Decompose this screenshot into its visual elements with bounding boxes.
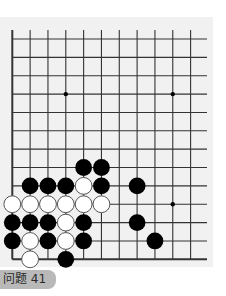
black-stone-icon[interactable] (40, 177, 57, 194)
problem-number-tab: 问题 41 (0, 270, 56, 289)
black-stone-icon[interactable] (4, 214, 21, 231)
white-stone-icon[interactable] (4, 196, 21, 213)
black-stone-icon[interactable] (75, 233, 92, 250)
problem-number-label: 问题 41 (3, 272, 46, 286)
white-stone-icon[interactable] (22, 251, 39, 268)
black-stone-icon[interactable] (4, 233, 21, 250)
black-stone-icon[interactable] (75, 214, 92, 231)
white-stone-icon[interactable] (93, 196, 110, 213)
black-stone-icon[interactable] (22, 214, 39, 231)
black-stone-icon[interactable] (57, 177, 74, 194)
white-stone-icon[interactable] (57, 233, 74, 250)
black-stone-icon[interactable] (22, 177, 39, 194)
black-stone-icon[interactable] (147, 233, 164, 250)
white-stone-icon[interactable] (57, 196, 74, 213)
star-point-icon (171, 202, 175, 206)
star-point-icon (64, 92, 68, 96)
white-stone-icon[interactable] (40, 196, 57, 213)
black-stone-icon[interactable] (57, 251, 74, 268)
white-stone-icon[interactable] (22, 233, 39, 250)
white-stone-icon[interactable] (75, 196, 92, 213)
white-stone-icon[interactable] (57, 214, 74, 231)
white-stone-icon[interactable] (75, 177, 92, 194)
star-point-icon (171, 92, 175, 96)
black-stone-icon[interactable] (129, 177, 146, 194)
go-board[interactable] (0, 0, 226, 296)
black-stone-icon[interactable] (40, 233, 57, 250)
black-stone-icon[interactable] (40, 214, 57, 231)
black-stone-icon[interactable] (75, 159, 92, 176)
white-stone-icon[interactable] (22, 196, 39, 213)
black-stone-icon[interactable] (93, 159, 110, 176)
black-stone-icon[interactable] (129, 214, 146, 231)
black-stone-icon[interactable] (93, 177, 110, 194)
